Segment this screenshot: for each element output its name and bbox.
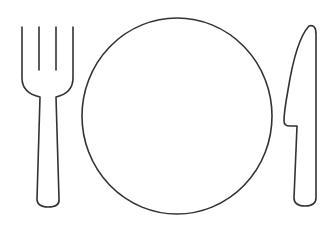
fork-icon — [22, 27, 73, 207]
plate-icon — [82, 18, 272, 214]
place-setting-illustration: Place setting icon — [0, 0, 332, 229]
place-setting-svg — [0, 0, 332, 229]
knife-icon — [284, 26, 316, 206]
